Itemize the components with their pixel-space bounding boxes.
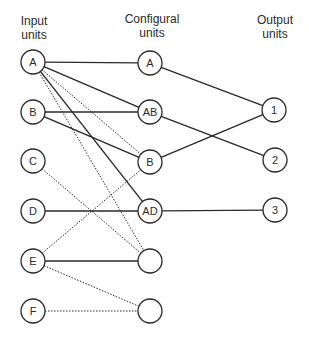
node-in-F: F bbox=[21, 299, 45, 323]
node-label: AB bbox=[143, 106, 158, 118]
node-in-A: A bbox=[21, 50, 45, 74]
node-cf-AB: AB bbox=[138, 100, 162, 124]
edge-cf-B-to-out-1 bbox=[161, 115, 263, 158]
node-out-1: 1 bbox=[262, 98, 286, 122]
node-label: A bbox=[29, 56, 37, 68]
edge-in-B-to-cf-B bbox=[44, 117, 139, 158]
node-cf-blank1 bbox=[138, 249, 162, 273]
diagram-canvas: ABCDEFAABBAD123 bbox=[0, 0, 309, 337]
nodes-layer: ABCDEFAABBAD123 bbox=[21, 50, 287, 323]
node-label: 1 bbox=[271, 104, 277, 116]
node-in-D: D bbox=[21, 199, 45, 223]
network-diagram: Input units Configural units Output unit… bbox=[0, 0, 309, 337]
node-in-B: B bbox=[21, 100, 45, 124]
node-in-C: C bbox=[21, 149, 45, 173]
node-in-E: E bbox=[21, 249, 45, 273]
edge-in-A-to-cf-blank1 bbox=[39, 72, 144, 250]
edge-cf-AD-to-out-3 bbox=[162, 210, 263, 211]
node-cf-A: A bbox=[138, 51, 162, 75]
node-circle bbox=[138, 249, 162, 273]
edge-in-A-to-cf-AB bbox=[44, 67, 139, 108]
node-label: C bbox=[29, 155, 37, 167]
node-label: B bbox=[146, 156, 153, 168]
node-cf-blank2 bbox=[138, 299, 162, 323]
node-label: E bbox=[29, 255, 36, 267]
node-label: A bbox=[146, 57, 154, 69]
node-label: B bbox=[29, 106, 36, 118]
node-label: F bbox=[30, 305, 37, 317]
edge-in-A-to-cf-A bbox=[45, 62, 138, 63]
node-label: 2 bbox=[272, 154, 278, 166]
edge-in-E-to-cf-blank2 bbox=[44, 266, 139, 307]
node-out-3: 3 bbox=[263, 198, 287, 222]
node-label: D bbox=[29, 205, 37, 217]
node-out-2: 2 bbox=[263, 148, 287, 172]
node-label: AD bbox=[142, 205, 157, 217]
node-cf-B: B bbox=[138, 150, 162, 174]
node-circle bbox=[138, 299, 162, 323]
edge-cf-A-to-out-1 bbox=[161, 67, 263, 105]
node-cf-AD: AD bbox=[138, 199, 162, 223]
node-label: 3 bbox=[272, 204, 278, 216]
